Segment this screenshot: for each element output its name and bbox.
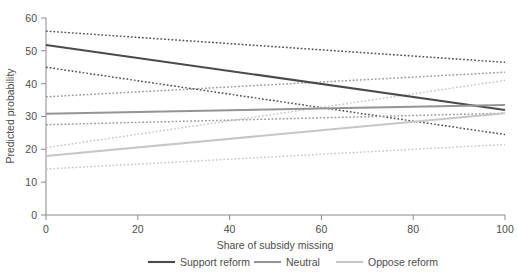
- x-tick-label-0: 0: [43, 223, 49, 235]
- y-tick-label-40: 40: [25, 78, 37, 90]
- x-tick-label-100: 100: [496, 223, 514, 235]
- y-tick-label-0: 0: [31, 209, 37, 221]
- y-tick-label-60: 60: [25, 12, 37, 24]
- x-axis-title: Share of subsidy missing: [217, 239, 334, 251]
- y-tick-label-10: 10: [25, 176, 37, 188]
- y-axis-title: Predicted probability: [4, 68, 16, 164]
- predicted-probability-line-chart: 0 10 20 30 40 50 60 0 20 40 60 80 100 Sh…: [0, 0, 517, 272]
- legend-label-support-reform: Support reform: [180, 256, 250, 268]
- x-tick-label-60: 60: [316, 223, 328, 235]
- x-tick-label-80: 80: [407, 223, 419, 235]
- y-tick-label-50: 50: [25, 45, 37, 57]
- x-tick-label-40: 40: [224, 223, 236, 235]
- y-tick-label-30: 30: [25, 110, 37, 122]
- legend-label-neutral: Neutral: [286, 256, 320, 268]
- x-tick-label-20: 20: [132, 223, 144, 235]
- y-tick-label-20: 20: [25, 143, 37, 155]
- chart-legend: Support reform Neutral Oppose reform: [148, 256, 438, 268]
- legend-label-oppose-reform: Oppose reform: [368, 256, 438, 268]
